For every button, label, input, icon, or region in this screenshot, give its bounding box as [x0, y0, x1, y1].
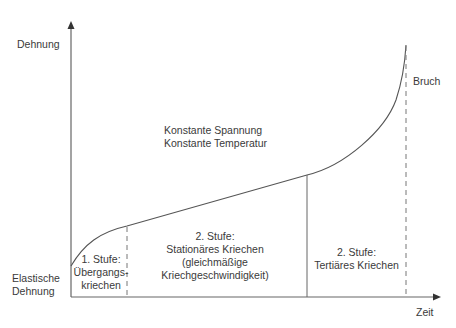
stage-2-line-4: Kriechgeschwindigkeit)	[150, 269, 280, 282]
fracture-label: Bruch	[413, 75, 440, 88]
conditions-text: Konstante Spannung Konstante Temperatur	[164, 124, 267, 150]
y-axis-arrow-icon	[68, 21, 75, 29]
stage-2-line-3: (gleichmäßige	[150, 256, 280, 269]
stage-2-line-1: 2. Stufe:	[150, 230, 280, 243]
stage-1-label: 1. Stufe: Übergangs- kriechen	[73, 253, 129, 292]
stage-1-line-2: Übergangs-	[73, 266, 129, 279]
stage-3-label: 2. Stufe: Tertiäres Kriechen	[307, 246, 406, 272]
conditions-line-2: Konstante Temperatur	[164, 137, 267, 150]
stage-1-line-3: kriechen	[73, 279, 129, 292]
stage-3-line-2: Tertiäres Kriechen	[307, 259, 406, 272]
stage-3-line-1: 2. Stufe:	[307, 246, 406, 259]
conditions-line-1: Konstante Spannung	[164, 124, 267, 137]
stage-2-label: 2. Stufe: Stationäres Kriechen (gleichmä…	[150, 230, 280, 282]
stage-1-line-1: 1. Stufe:	[73, 253, 129, 266]
elastic-strain-line-1: Elastische	[12, 272, 60, 285]
y-axis-label: Dehnung	[17, 38, 60, 51]
stage-2-line-2: Stationäres Kriechen	[150, 243, 280, 256]
elastic-strain-line-2: Dehnung	[12, 285, 60, 298]
x-axis-arrow-icon	[433, 294, 441, 301]
elastic-strain-label: Elastische Dehnung	[12, 272, 60, 298]
x-axis-label: Zeit	[416, 306, 434, 319]
